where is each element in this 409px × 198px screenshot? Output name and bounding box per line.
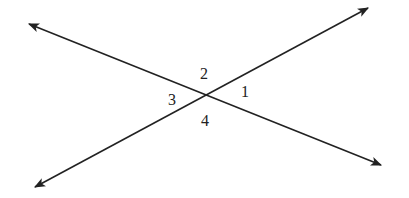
angle-3-label: 3: [168, 92, 176, 108]
angle-4-label: 4: [201, 113, 209, 129]
line-a: [29, 24, 381, 165]
intersecting-lines-diagram: [0, 0, 409, 198]
line-b: [35, 8, 368, 187]
angle-2-label: 2: [200, 66, 208, 82]
angle-1-label: 1: [241, 84, 249, 100]
